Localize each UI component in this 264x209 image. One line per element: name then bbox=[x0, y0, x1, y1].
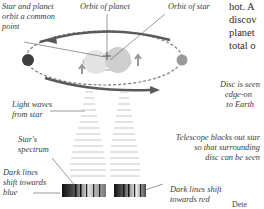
label-orbit-planet: Orbit of planet bbox=[80, 2, 130, 12]
spectrum-blue-shift bbox=[62, 184, 106, 197]
label-disc-edge: Disc is seen edge-on to Earth bbox=[220, 80, 260, 110]
light-waves-left bbox=[70, 92, 106, 176]
arrow-up-icon bbox=[135, 55, 141, 66]
arrow-down-icon bbox=[79, 65, 85, 74]
light-waves-right bbox=[110, 92, 140, 176]
planet-left-icon bbox=[22, 54, 34, 66]
label-common-point: Star and planet orbit a common point bbox=[2, 2, 55, 32]
footer-text: Dete bbox=[232, 200, 247, 209]
orbit-arrow-top bbox=[40, 31, 170, 42]
spectrum-red-shift bbox=[114, 184, 146, 197]
label-spectrum: Star's spectrum bbox=[18, 135, 49, 155]
planet-right-icon bbox=[177, 55, 188, 66]
label-telescope: Telescope blacks out star so that surrou… bbox=[176, 133, 260, 163]
label-orbit-star: Orbit of star bbox=[168, 2, 210, 12]
star-icon bbox=[105, 47, 131, 73]
arrow-head-icon bbox=[150, 86, 160, 94]
label-shift-red: Dark lines shift towards red bbox=[170, 185, 222, 205]
label-shift-blue: Dark lines shift towards blue bbox=[3, 168, 46, 198]
label-light-waves: Light waves from star bbox=[12, 100, 52, 120]
orbit-arrow-bottom bbox=[45, 78, 150, 90]
body-text: hot. A discov planet total o bbox=[229, 0, 256, 52]
